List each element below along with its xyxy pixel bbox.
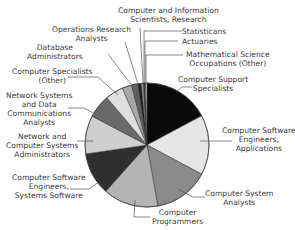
pie-slices [85,83,209,207]
label-actuaries: Actuaries [182,37,218,46]
label-support: Computer Support Specialists [178,75,248,93]
leader-ops-research [125,42,138,84]
label-db-admin: Database Administrators [27,43,83,61]
label-net-sys-data: Network Systems and Data Communications … [6,91,72,127]
label-programmers: Computer Programmers [152,208,203,226]
label-net-comp-admin: Network and Computer Systems Administrat… [6,132,78,159]
leader-actuaries [145,41,178,83]
leader-cis-research [140,28,143,83]
label-math-other: Mathematical Science Occupations (Other) [186,50,270,68]
label-statisticians: Statisticans [182,27,226,36]
label-cse-systems: Computer Software Engineers, Systems Sof… [12,173,86,200]
label-cse-apps: Computer Software Engineers, Application… [222,126,295,153]
label-ops-research: Operations Research Analysts [52,25,131,43]
label-cis-research: Computer and Information Scientists, Res… [118,6,219,24]
leader-statisticians [144,31,182,83]
label-system-analysts: Computer System Analysts [205,189,273,207]
label-comp-spec-other: Computer Specialists (Other) [12,67,93,85]
leader-db-admin [108,54,133,87]
